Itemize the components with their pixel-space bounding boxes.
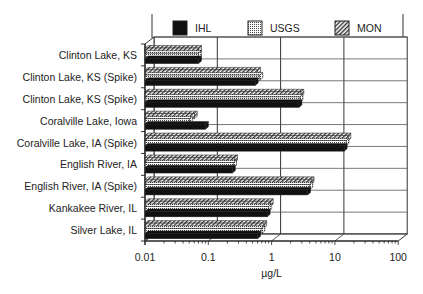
bar-ihl — [145, 80, 255, 85]
legend-swatch — [335, 21, 349, 35]
legend-label: IHL — [195, 22, 212, 34]
category-label: Kankakee River, IL — [49, 202, 137, 214]
x-axis-title: µg/L — [261, 267, 282, 279]
legend-swatch — [173, 21, 187, 35]
bar-ihl — [145, 146, 344, 151]
bar-group — [145, 221, 267, 239]
legend-label: USGS — [270, 22, 300, 34]
category-label: Clinton Lake, KS (Spike) — [23, 93, 137, 105]
category-label: English River, IA (Spike) — [24, 180, 137, 192]
legend-item-ihl: IHL — [173, 21, 212, 35]
x-tick-label: 100 — [389, 251, 407, 263]
bar-ihl — [145, 212, 267, 217]
category-labels: Clinton Lake, KSClinton Lake, KS (Spike)… — [17, 49, 137, 236]
bar-group — [145, 177, 314, 195]
category-label: Coralville Lake, IA (Spike) — [17, 137, 137, 149]
x-tick-label: 10 — [329, 251, 341, 263]
bar-group — [145, 155, 238, 173]
bar-group — [145, 46, 201, 64]
category-label: Silver Lake, IL — [70, 224, 137, 236]
bar-ihl — [145, 168, 232, 173]
category-label: English River, IA — [60, 158, 137, 170]
legend-swatch — [248, 21, 262, 35]
bar-group — [145, 133, 351, 151]
bar-group — [145, 89, 304, 107]
legend-item-mon: MON — [335, 21, 382, 35]
bar-group — [145, 199, 273, 217]
x-tick-label: 0.01 — [135, 251, 156, 263]
x-tick-label: 0.1 — [201, 251, 216, 263]
plot-area — [141, 37, 407, 241]
x-tick-label: 1 — [269, 251, 275, 263]
category-label: Clinton Lake, KS (Spike) — [23, 71, 137, 83]
legend-label: MON — [357, 22, 382, 34]
legend: IHLUSGSMON — [152, 14, 403, 38]
bar-ihl — [145, 190, 308, 195]
bar-ihl — [145, 102, 299, 107]
category-label: Clinton Lake, KS — [59, 49, 137, 61]
bar-ihl — [145, 234, 258, 239]
legend-item-usgs: USGS — [248, 21, 300, 35]
category-label: Coralville Lake, Iowa — [40, 115, 137, 127]
bar-ihl — [145, 124, 205, 129]
bar-chart: IHLUSGSMON Clinton Lake, KSClinton Lake,… — [0, 0, 423, 294]
bar-ihl — [145, 58, 198, 63]
bar-group — [145, 67, 263, 85]
